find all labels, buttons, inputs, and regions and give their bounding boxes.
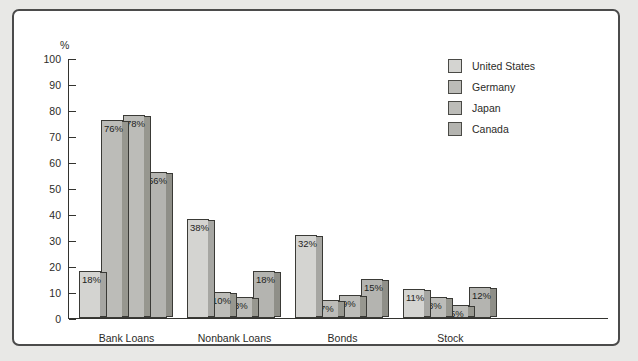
y-axis-tick-mark xyxy=(69,111,76,112)
y-axis-tick-mark xyxy=(69,215,76,216)
bar-side-face xyxy=(382,280,389,317)
bar-side-face xyxy=(230,293,237,317)
y-axis-tick-mark xyxy=(69,319,76,320)
y-axis-tick-mark xyxy=(69,267,76,268)
legend-label: United States xyxy=(472,60,535,72)
bar-value-label: 38% xyxy=(190,223,209,233)
legend-swatch xyxy=(448,59,462,73)
bar-side-face xyxy=(208,220,215,317)
legend-label: Germany xyxy=(472,81,515,93)
legend-label: Canada xyxy=(472,123,509,135)
bar-value-label: 32% xyxy=(298,239,317,249)
legend-item[interactable]: United States xyxy=(448,55,535,76)
y-axis-tick-label: 90 xyxy=(49,79,61,91)
y-axis-tick-label: 50 xyxy=(49,183,61,195)
bar-value-label: 76% xyxy=(104,124,123,134)
legend-swatch xyxy=(448,122,462,136)
bar-value-label: 15% xyxy=(364,283,383,293)
bar-group: 18%76%78%56% xyxy=(79,58,174,318)
legend-label: Japan xyxy=(472,102,501,114)
bar-side-face xyxy=(274,272,281,317)
y-axis-tick-label: 100 xyxy=(43,53,61,65)
y-axis-tick-mark xyxy=(69,137,76,138)
y-axis-tick-label: 0 xyxy=(55,313,61,325)
legend-item[interactable]: Japan xyxy=(448,97,535,118)
bar-group: 32%7%9%15% xyxy=(295,58,390,318)
bar-side-face xyxy=(252,298,259,317)
bar-side-face xyxy=(446,298,453,317)
y-axis-tick-mark xyxy=(69,189,76,190)
y-axis-tick-label: 40 xyxy=(49,209,61,221)
y-axis-tick-label: 70 xyxy=(49,131,61,143)
bar-value-label: 18% xyxy=(82,275,101,285)
chart-legend: United StatesGermanyJapanCanada xyxy=(448,55,535,139)
y-axis-tick-label: 80 xyxy=(49,105,61,117)
y-axis-tick-label: 20 xyxy=(49,261,61,273)
bar-side-face xyxy=(144,116,151,317)
bar-side-face xyxy=(166,173,173,317)
category-label: Stock xyxy=(383,332,518,344)
y-axis-tick-mark xyxy=(69,293,76,294)
legend-swatch xyxy=(448,80,462,94)
x-axis-line xyxy=(68,318,608,319)
bar-value-label: 12% xyxy=(472,291,491,301)
y-axis-tick-mark xyxy=(69,163,76,164)
bar-side-face xyxy=(122,121,129,317)
bar[interactable]: 18% xyxy=(79,271,101,318)
bar-group: 38%10%8%18% xyxy=(187,58,282,318)
y-axis-tick-mark xyxy=(69,59,76,60)
bar-side-face xyxy=(468,306,475,317)
y-axis-tick-mark xyxy=(69,241,76,242)
bar-side-face xyxy=(100,272,107,317)
y-axis-tick-mark xyxy=(69,85,76,86)
bar-side-face xyxy=(424,290,431,317)
legend-item[interactable]: Germany xyxy=(448,76,535,97)
y-axis-tick-label: 30 xyxy=(49,235,61,247)
y-axis-tick-label: 60 xyxy=(49,157,61,169)
bar-side-face xyxy=(360,296,367,317)
bar-value-label: 18% xyxy=(256,275,275,285)
bar[interactable]: 38% xyxy=(187,219,209,318)
bar-side-face xyxy=(490,288,497,317)
legend-swatch xyxy=(448,101,462,115)
y-axis-unit-label: % xyxy=(60,39,69,51)
bar[interactable]: 32% xyxy=(295,235,317,318)
bar-value-label: 11% xyxy=(406,293,424,303)
legend-item[interactable]: Canada xyxy=(448,118,535,139)
bar[interactable]: 11% xyxy=(403,289,425,318)
y-axis-tick-label: 10 xyxy=(49,287,61,299)
bar-side-face xyxy=(316,236,323,317)
bar-side-face xyxy=(338,301,345,317)
chart-figure-frame: % 1009080706050403020100 18%76%78%56%38%… xyxy=(12,9,620,346)
